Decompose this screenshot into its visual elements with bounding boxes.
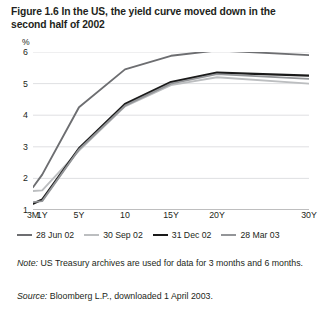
legend-swatch-icon [17,234,32,236]
series-line-28-jun-02 [33,52,309,187]
chart-legend: 28 Jun 0230 Sep 0231 Dec 0228 Mar 03 [17,230,309,240]
series-line-31-dec-02 [33,73,309,204]
legend-swatch-icon [153,234,168,236]
x-axis-tick-label: 5Y [74,210,85,220]
legend-item[interactable]: 30 Sep 02 [84,230,143,240]
source-label: Source: [17,291,47,301]
chart-plot-area: 123456 [33,52,309,210]
legend-label: 30 Sep 02 [103,230,143,240]
source-text: Bloomberg L.P., downloaded 1 April 2003. [47,291,213,301]
y-axis-tick-label: 6 [23,47,28,57]
legend-item[interactable]: 28 Jun 02 [17,230,74,240]
y-axis-unit-label: % [22,37,30,47]
x-axis-tick-label: 30Y [301,210,317,220]
y-axis-tick-label: 3 [23,142,28,152]
y-axis-tick-label: 2 [23,173,28,183]
figure-note: Note: US Treasury archives are used for … [17,258,307,270]
legend-label: 28 Mar 03 [240,230,279,240]
series-line-30-sep-02 [33,77,309,191]
x-axis-tick-label: 1Y [37,210,48,220]
note-label: Note: [17,258,38,268]
legend-label: 31 Dec 02 [172,230,212,240]
legend-label: 28 Jun 02 [36,230,74,240]
x-axis-tick-label: 20Y [209,210,225,220]
series-line-28-mar-03 [33,74,309,202]
legend-item[interactable]: 31 Dec 02 [153,230,212,240]
y-axis-tick-label: 5 [23,79,28,89]
note-text: US Treasury archives are used for data f… [38,258,303,268]
figure-source: Source: Bloomberg L.P., downloaded 1 Apr… [17,291,307,303]
x-axis-tick-label: 15Y [163,210,179,220]
x-axis-tick-labels: 3M1Y5Y1015Y20Y30Y [33,210,309,224]
legend-swatch-icon [84,234,99,236]
legend-swatch-icon [221,234,236,236]
legend-item[interactable]: 28 Mar 03 [221,230,279,240]
yield-curve-chart [33,52,309,210]
y-axis-tick-label: 4 [23,110,28,120]
figure-container: Figure 1.6 In the US, the yield curve mo… [0,0,319,316]
figure-title: Figure 1.6 In the US, the yield curve mo… [11,5,309,31]
x-axis-tick-label: 10 [120,210,130,220]
